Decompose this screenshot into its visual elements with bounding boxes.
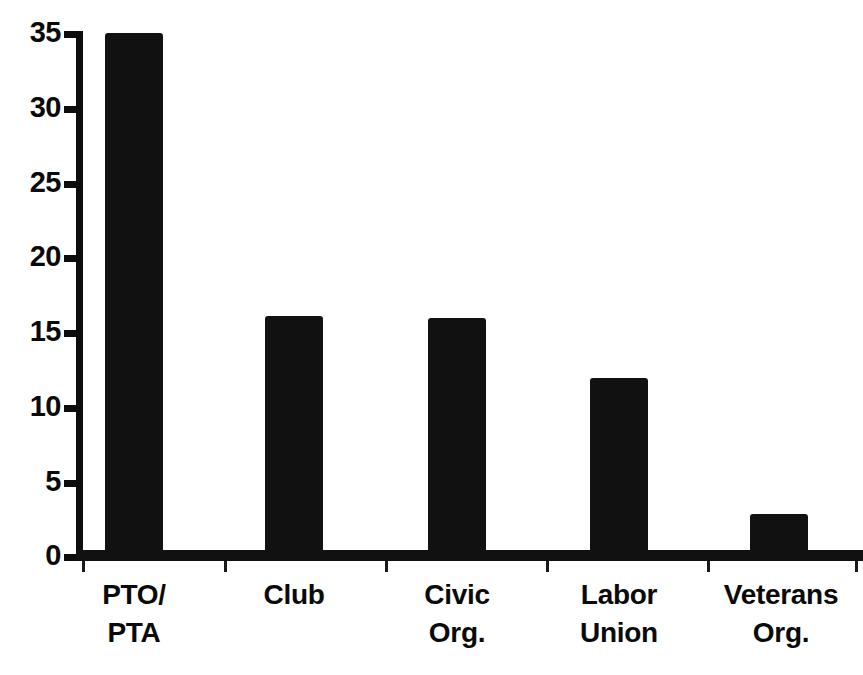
bar-civic-org[interactable] bbox=[428, 318, 486, 556]
x-label-veterans-org: Veterans Org. bbox=[703, 576, 859, 652]
x-label-club: Club bbox=[220, 576, 368, 614]
plot-area bbox=[0, 0, 863, 675]
scan-artifact-text: and coeducational vocational technical s… bbox=[24, 661, 324, 664]
x-label-club-line1: Club bbox=[263, 579, 324, 610]
scan-artifact-clipped-text: and coeducational vocational technical s… bbox=[24, 661, 824, 675]
x-label-labor-union-line1: Labor bbox=[581, 579, 657, 610]
x-label-civic-org-line1: Civic bbox=[424, 579, 489, 610]
bar-pto-pta[interactable] bbox=[105, 33, 163, 556]
x-tick-mark-4 bbox=[546, 561, 549, 572]
bar-chart-figure: 35 30 25 20 15 10 5 0 bbox=[0, 0, 863, 675]
x-tick-mark-6 bbox=[855, 561, 858, 572]
x-label-veterans-org-line2: Org. bbox=[703, 614, 859, 652]
x-label-labor-union: Labor Union bbox=[545, 576, 693, 652]
x-tick-mark-1 bbox=[82, 561, 85, 572]
x-axis-baseline bbox=[76, 550, 863, 561]
x-label-civic-org: Civic Org. bbox=[383, 576, 531, 652]
x-label-civic-org-line2: Org. bbox=[383, 614, 531, 652]
x-tick-mark-3 bbox=[385, 561, 388, 572]
x-label-pto-pta: PTO/ PTA bbox=[60, 576, 208, 652]
x-label-pto-pta-line1: PTO/ bbox=[102, 579, 166, 610]
x-tick-mark-2 bbox=[224, 561, 227, 572]
x-axis-labels: PTO/ PTA Club Civic Org. Labor Union Vet… bbox=[0, 576, 863, 671]
x-label-pto-pta-line2: PTA bbox=[60, 614, 208, 652]
bar-club[interactable] bbox=[265, 316, 323, 556]
bar-labor-union[interactable] bbox=[590, 378, 648, 556]
x-tick-mark-5 bbox=[707, 561, 710, 572]
x-label-veterans-org-line1: Veterans bbox=[724, 579, 838, 610]
x-label-labor-union-line2: Union bbox=[545, 614, 693, 652]
